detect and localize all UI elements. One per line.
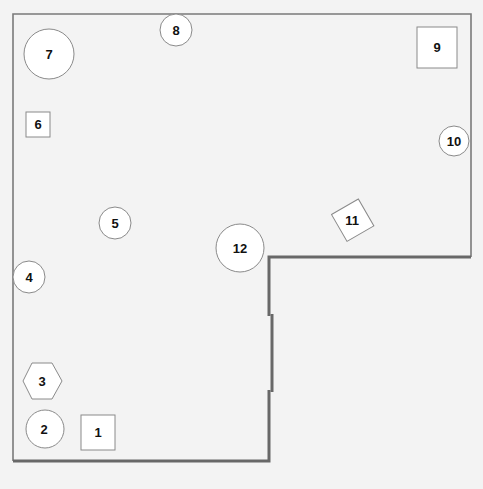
item-4[interactable]: 4: [13, 261, 45, 293]
item-2-label: 2: [40, 422, 47, 437]
item-6[interactable]: 6: [26, 112, 50, 137]
item-5-label: 5: [111, 216, 118, 231]
item-12[interactable]: 12: [216, 224, 264, 272]
item-3-label: 3: [38, 374, 45, 389]
item-10[interactable]: 10: [439, 126, 469, 156]
item-12-label: 12: [233, 241, 247, 256]
item-8-label: 8: [172, 23, 179, 38]
item-11-label: 11: [345, 213, 359, 228]
item-9-label: 9: [433, 40, 440, 55]
item-5[interactable]: 5: [99, 207, 131, 239]
item-7-label: 7: [45, 47, 52, 62]
item-10-label: 10: [447, 134, 461, 149]
item-1[interactable]: 1: [81, 415, 115, 450]
item-2[interactable]: 2: [26, 410, 64, 448]
wall-thick: [269, 257, 471, 316]
item-9[interactable]: 9: [417, 27, 457, 68]
item-6-label: 6: [34, 117, 41, 132]
item-1-label: 1: [94, 425, 101, 440]
item-4-label: 4: [25, 270, 33, 285]
item-7[interactable]: 7: [24, 29, 74, 79]
item-11[interactable]: 11: [332, 199, 374, 241]
floor-plan-diagram: 7 8 6 9 10 11 12 5 4 3: [0, 0, 483, 489]
item-3[interactable]: 3: [23, 363, 62, 399]
item-8[interactable]: 8: [160, 14, 192, 46]
